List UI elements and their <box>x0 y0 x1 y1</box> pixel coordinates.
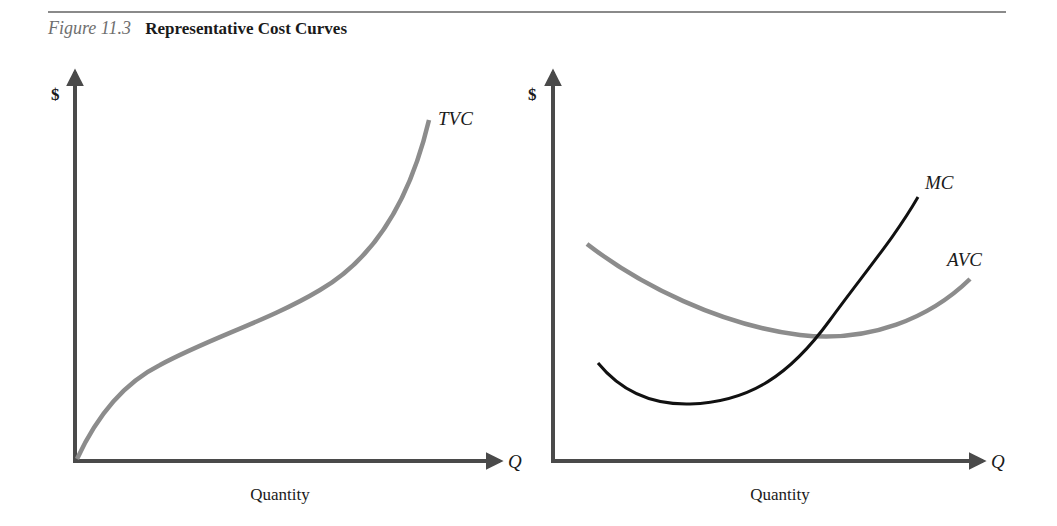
right-x-axis-title: Quantity <box>750 485 810 504</box>
mc-label: MC <box>924 172 954 193</box>
left-panel: $ Q Quantity TVC <box>51 72 522 504</box>
right-y-axis-label: $ <box>528 85 537 104</box>
right-x-axis-end-label: Q <box>991 451 1005 472</box>
tvc-curve <box>77 120 429 459</box>
mc-curve <box>598 197 918 404</box>
left-x-axis-title: Quantity <box>250 485 310 504</box>
avc-curve <box>587 244 970 336</box>
avc-label: AVC <box>945 249 982 270</box>
tvc-label: TVC <box>438 108 473 129</box>
right-panel: $ Q Quantity AVC MC <box>528 72 1005 504</box>
left-x-axis-end-label: Q <box>508 451 522 472</box>
chart-canvas: $ Q Quantity TVC $ Q Quantity AVC MC <box>0 0 1057 526</box>
left-y-axis-label: $ <box>51 85 60 104</box>
